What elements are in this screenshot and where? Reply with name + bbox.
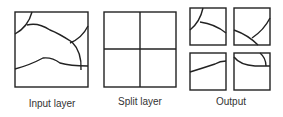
output-tile-bottom-left: [190, 53, 226, 90]
output-tile-top-left: [190, 8, 226, 45]
output-tile-top-right: [234, 8, 270, 45]
input-layer-label: Input layer: [29, 98, 76, 109]
input-boundary-3: [70, 26, 88, 43]
input-boundary-2: [27, 24, 81, 70]
split-layer-label: Split layer: [118, 96, 162, 107]
output-panel: [190, 8, 270, 90]
output-label: Output: [216, 96, 246, 107]
split-layer-panel: [104, 12, 176, 87]
output-tile-bottom-right: [234, 53, 270, 90]
input-boundary-1: [15, 12, 32, 34]
input-boundary-4: [15, 58, 88, 69]
input-layer-panel: [15, 12, 88, 87]
